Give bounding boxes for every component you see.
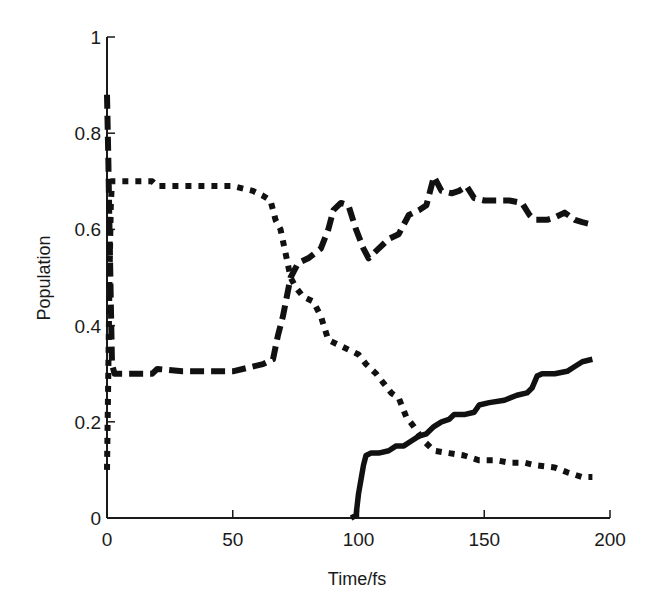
x-tick-label: 0 [102, 529, 113, 550]
y-tick-label: 0.8 [75, 123, 101, 144]
series-dotted-line [107, 181, 592, 477]
population-chart: 05010015020000.20.40.60.81 Time/fs Popul… [0, 0, 658, 613]
axes [107, 37, 610, 518]
x-tick-label: 150 [468, 529, 500, 550]
series-layer [107, 95, 592, 518]
y-axis-title: Population [34, 235, 54, 320]
y-tick-label: 0.6 [75, 219, 101, 240]
y-tick-label: 1 [90, 27, 101, 48]
y-tick-label: 0 [90, 508, 101, 529]
x-axis-title: Time/fs [328, 569, 386, 589]
series-dashed-line [107, 95, 592, 374]
tick-labels: 05010015020000.20.40.60.81 [75, 27, 626, 550]
x-tick-label: 100 [343, 529, 375, 550]
x-tick-label: 50 [222, 529, 243, 550]
x-tick-label: 200 [594, 529, 626, 550]
y-tick-label: 0.2 [75, 412, 101, 433]
y-tick-label: 0.4 [75, 316, 102, 337]
